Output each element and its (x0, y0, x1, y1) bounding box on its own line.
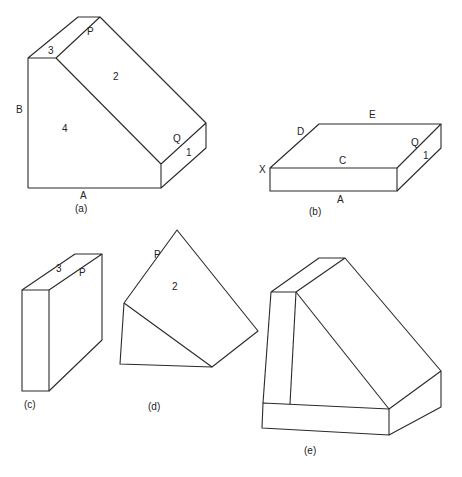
label-a-q: Q (173, 134, 181, 144)
solid-c (22, 254, 102, 391)
caption-a: (a) (75, 204, 87, 214)
label-b-x: X (259, 165, 266, 175)
label-d-p: P (154, 250, 161, 260)
label-d-2: 2 (172, 282, 178, 292)
caption-e: (e) (304, 446, 316, 456)
label-b-q: Q (411, 138, 419, 148)
caption-c: (c) (24, 400, 36, 410)
label-a-4: 4 (62, 124, 68, 134)
caption-d: (d) (148, 402, 160, 412)
label-c-p: P (79, 268, 86, 278)
solid-e (262, 258, 441, 435)
label-a-1: 1 (186, 148, 192, 158)
solid-d (120, 230, 258, 367)
label-b-1: 1 (423, 151, 429, 161)
solid-a (28, 17, 206, 188)
label-b-d: D (297, 127, 304, 137)
label-a-3: 3 (48, 46, 54, 56)
caption-b: (b) (309, 207, 321, 217)
label-c-3: 3 (56, 264, 62, 274)
solid-b (270, 124, 441, 191)
label-a-p: P (87, 27, 94, 37)
figure-canvas (0, 0, 462, 477)
label-b-e: E (369, 110, 376, 120)
label-a-a: A (80, 191, 87, 201)
label-a-2: 2 (113, 72, 119, 82)
label-b-c: C (339, 156, 346, 166)
label-a-b: B (16, 105, 23, 115)
label-b-a: A (337, 195, 344, 205)
